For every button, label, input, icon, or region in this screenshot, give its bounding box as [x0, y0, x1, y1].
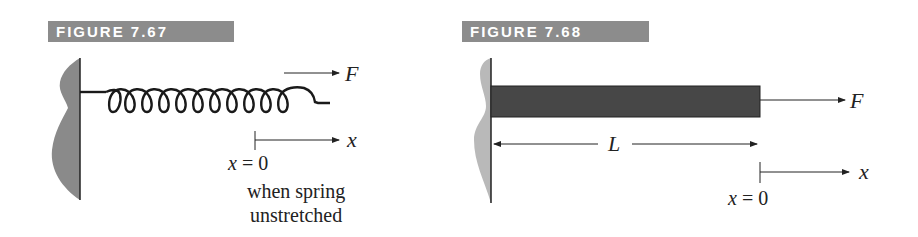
- origin-label: x = 0: [228, 152, 268, 175]
- wall-icon: [52, 58, 80, 200]
- wall-icon: [474, 58, 491, 203]
- note-line-2: unstretched: [250, 204, 342, 227]
- axis-label: x: [859, 159, 869, 185]
- figure-7-67: [52, 58, 339, 200]
- note-line-1: when spring: [247, 180, 345, 203]
- figure-7-68: [474, 58, 849, 203]
- diagram-canvas: [0, 0, 918, 237]
- axis-label: x: [347, 127, 357, 153]
- origin-label: x = 0: [728, 187, 768, 210]
- bar: [491, 86, 760, 117]
- length-label: L: [608, 131, 620, 157]
- spring-icon: [80, 87, 330, 112]
- force-label: F: [850, 88, 863, 114]
- force-label: F: [345, 61, 358, 87]
